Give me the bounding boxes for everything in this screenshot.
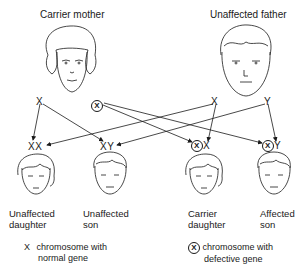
child-2-label: Unaffected son <box>83 208 129 230</box>
child-1-label: Unaffected daughter <box>9 208 55 230</box>
legend-defective: X chromosome with defective gene <box>188 242 273 265</box>
child-3-label: Carrier daughter <box>188 208 226 230</box>
legend-normal: X chromosome with normal gene <box>24 242 107 263</box>
boy-face-icon <box>94 152 127 194</box>
x-symbol: X <box>24 242 34 253</box>
child-4-label: Affected son <box>260 208 295 230</box>
girl-face-icon <box>18 154 55 194</box>
circled-x-icon: X <box>188 242 200 254</box>
girl-face-icon <box>186 154 223 194</box>
boy-face-icon <box>258 152 291 194</box>
